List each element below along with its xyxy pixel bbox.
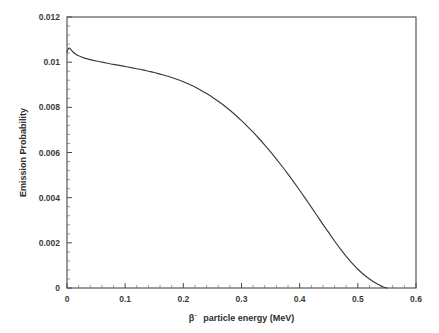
- x-axis-title-beta-symbol: β: [189, 313, 195, 323]
- y-axis-title: Emission Probability: [18, 108, 28, 197]
- y-tick-label: 0.008: [39, 102, 61, 112]
- y-tick-label: 0.002: [39, 238, 61, 248]
- x-tick-label: 0.3: [236, 294, 248, 304]
- x-tick-label: 0.4: [294, 294, 306, 304]
- chart-figure: 00.10.20.30.40.50.6 00.0020.0040.0060.00…: [0, 0, 439, 333]
- chart-background: [0, 0, 439, 333]
- beta-spectrum-chart: 00.10.20.30.40.50.6 00.0020.0040.0060.00…: [0, 0, 439, 333]
- y-tick-label: 0.004: [39, 193, 61, 203]
- x-axis-title: β - particle energy (MeV): [189, 312, 295, 324]
- y-tick-label: 0.01: [43, 57, 60, 67]
- x-tick-label: 0.2: [177, 294, 189, 304]
- x-tick-label: 0.6: [410, 294, 422, 304]
- x-axis-title-superscript: -: [195, 312, 197, 318]
- y-tick-label: 0.012: [39, 12, 61, 22]
- x-tick-label: 0.5: [352, 294, 364, 304]
- x-tick-label: 0: [65, 294, 70, 304]
- x-tick-label: 0.1: [119, 294, 131, 304]
- y-tick-label: 0: [55, 283, 60, 293]
- x-axis-title-text: particle energy (MeV): [203, 313, 294, 323]
- y-tick-label: 0.006: [39, 148, 61, 158]
